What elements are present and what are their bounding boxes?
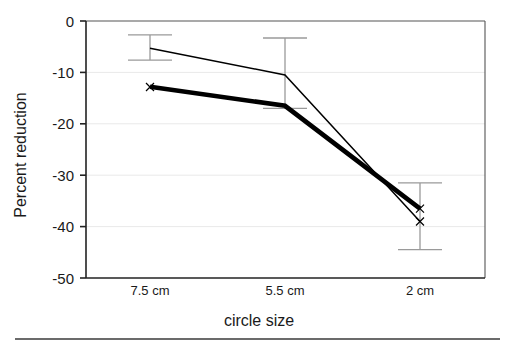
y-tick-label-0: 0: [66, 13, 74, 30]
y-axis-title: Percent reduction: [12, 92, 29, 217]
x-tick-label-5-5cm: 5.5 cm: [265, 283, 304, 298]
x-tick-label-7-5cm: 7.5 cm: [130, 283, 169, 298]
x-axis-title: circle size: [224, 312, 294, 329]
y-tick-label-minus40: -40: [52, 218, 74, 235]
chart-canvas: 0 -10 -20 -30 -40 -50: [0, 0, 514, 350]
y-tick-label-minus20: -20: [52, 115, 74, 132]
y-tick-label-minus10: -10: [52, 64, 74, 81]
y-tick-marks: [80, 21, 86, 278]
x-tick-label-2cm: 2 cm: [406, 283, 434, 298]
y-tick-label-minus50: -50: [52, 270, 74, 287]
chart-figure: 0 -10 -20 -30 -40 -50: [0, 0, 514, 350]
y-tick-label-minus30: -30: [52, 167, 74, 184]
